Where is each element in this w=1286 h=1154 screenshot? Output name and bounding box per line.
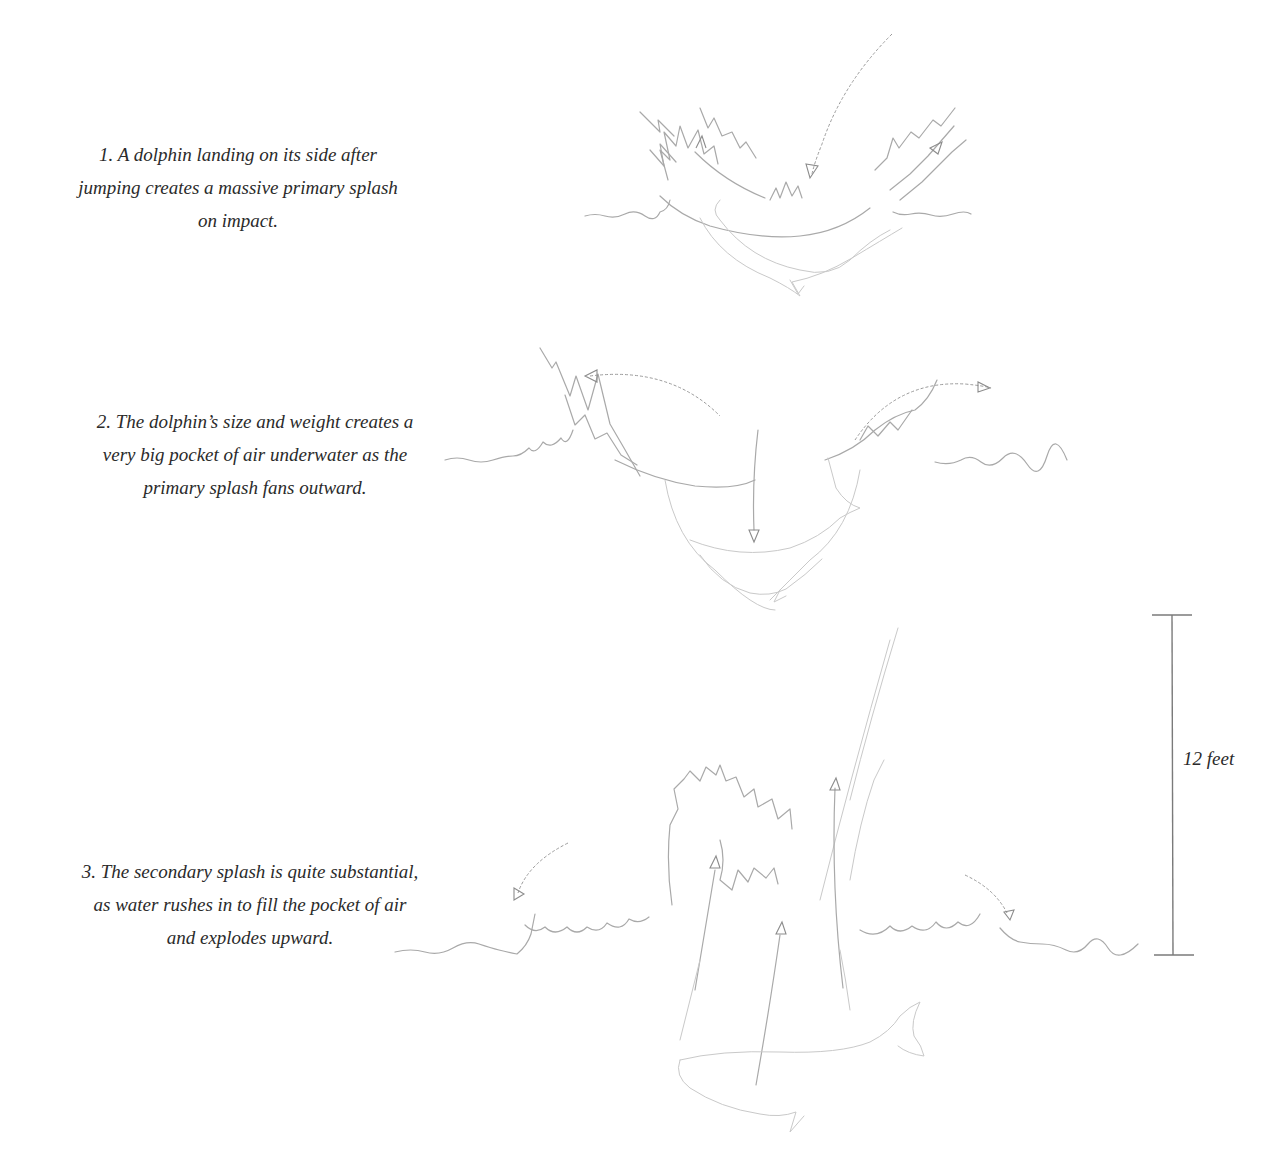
stage-3-illustration xyxy=(395,628,1138,1132)
stage-2-illustration xyxy=(445,348,1067,610)
scale-bar-label: 12 feet xyxy=(1183,748,1234,770)
stage-1-illustration xyxy=(585,34,971,296)
scale-bar xyxy=(1152,615,1194,955)
splash-sketches xyxy=(0,0,1286,1154)
scale-bar-line xyxy=(1172,615,1173,955)
